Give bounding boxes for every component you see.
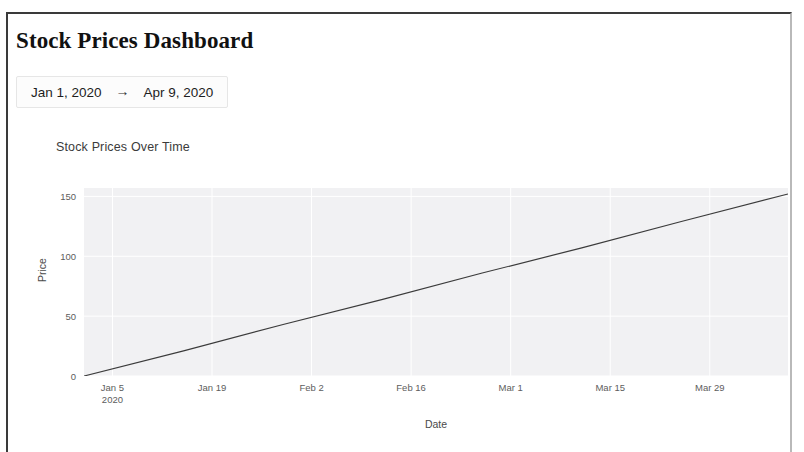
x-tick-label-primary: Mar 1 [499,382,523,393]
x-tick-label: Mar 1 [499,382,523,394]
plot-svg [84,188,788,376]
page-title: Stock Prices Dashboard [16,28,253,54]
plot-area [84,188,788,376]
y-tick-label: 0 [36,371,76,382]
x-axis-label: Date [425,418,447,430]
x-tick-label-primary: Jan 5 [101,382,124,393]
x-tick-label: Feb 2 [299,382,323,394]
x-tick-label: Mar 15 [595,382,625,394]
data-series [84,194,788,376]
x-tick-label: Feb 16 [396,382,426,394]
x-tick-label-primary: Feb 2 [299,382,323,393]
series-line [84,194,788,376]
date-range-end[interactable]: Apr 9, 2020 [144,85,214,100]
chart-title: Stock Prices Over Time [56,140,190,154]
stock-prices-chart: Stock Prices Over Time Price 050100150 J… [8,118,792,444]
arrow-right-icon: → [116,84,130,100]
x-tick-label-primary: Mar 15 [595,382,625,393]
y-tick-label: 100 [36,251,76,262]
x-tick-label: Jan 19 [198,382,227,394]
x-tick-label: Mar 29 [695,382,725,394]
y-tick-label: 150 [36,191,76,202]
x-tick-label-primary: Mar 29 [695,382,725,393]
x-tick-label-primary: Jan 19 [198,382,227,393]
y-tick-label: 50 [36,311,76,322]
app-frame: Stock Prices Dashboard Jan 1, 2020 → Apr… [6,12,792,452]
x-tick-label-secondary: 2020 [101,394,124,406]
x-tick-label-primary: Feb 16 [396,382,426,393]
date-range-start[interactable]: Jan 1, 2020 [31,85,102,100]
x-tick-label: Jan 52020 [101,382,124,406]
gridlines [84,188,788,376]
date-range-picker[interactable]: Jan 1, 2020 → Apr 9, 2020 [16,76,228,108]
